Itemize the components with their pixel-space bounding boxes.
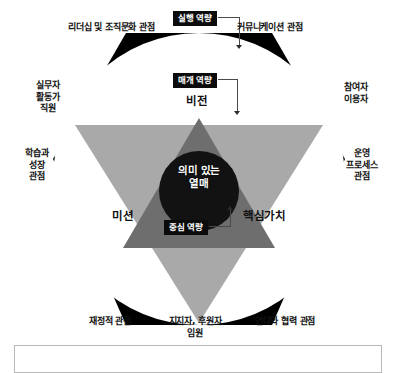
caption-text (15, 346, 381, 362)
label-staff: 실무자 활동가 직원 (20, 80, 76, 115)
connector-core-horizontal (209, 226, 231, 227)
arrow-execution-icon (236, 45, 242, 49)
label-leadership-culture: 리더십 및 조직문화 관점 (68, 22, 155, 34)
label-operations-process: 운영 프로세스 관점 (332, 148, 392, 183)
inner-word-core-values: 핵심가치 (243, 207, 286, 223)
label-communication: 커뮤니케이션 관점 (237, 22, 302, 34)
core-circle-shape (159, 151, 239, 231)
label-supporters: 지지자, 후원자 임원 (152, 316, 238, 339)
connector-execution-horizontal (218, 17, 240, 18)
label-financial: 재정적 관점 (74, 316, 146, 328)
connector-core-vertical (230, 210, 231, 227)
label-solidarity-cooperation: 연대와 협력 관점 (240, 316, 330, 328)
chip-mediation-capability: 매개 역량 (173, 73, 217, 88)
label-participants: 참여자 이용자 (328, 82, 384, 105)
connector-mediation-vertical (237, 79, 238, 112)
chip-core-capability: 중심 역량 (164, 220, 208, 235)
connector-mediation-horizontal (218, 79, 238, 80)
arrow-core-icon (227, 206, 233, 210)
caption-frame (14, 345, 382, 373)
inner-word-mission: 미션 (112, 207, 133, 223)
label-learning-growth: 학습과 성장 관점 (8, 148, 66, 183)
inner-word-vision: 비전 (186, 92, 207, 108)
core-circle-label: 의미 있는 열매 (149, 164, 249, 190)
arrow-mediation-icon (234, 111, 240, 115)
chip-execution-capability: 실행 역량 (173, 11, 217, 26)
